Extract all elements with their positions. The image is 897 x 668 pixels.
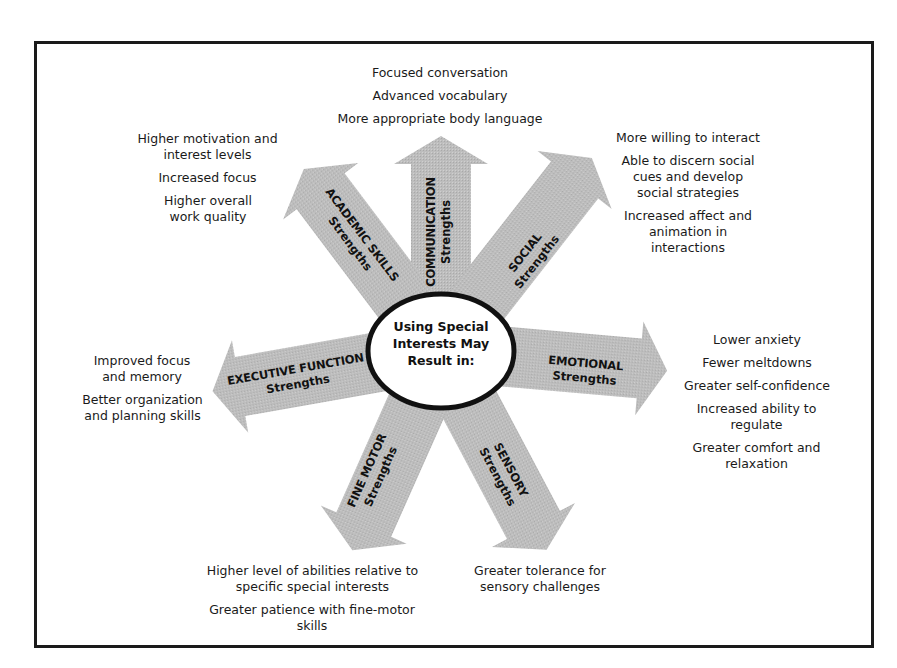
outcome-item: Increased focus	[130, 170, 285, 186]
outcomes-social: More willing to interact Able to discern…	[598, 130, 778, 263]
outcome-item: Greater tolerance for sensory challenges	[470, 563, 610, 595]
outcome-item: Greater comfort and relaxation	[684, 440, 829, 472]
outcome-item: Higher level of abilities relative to sp…	[200, 563, 425, 595]
outcomes-communication: Focused conversation Advanced vocabulary…	[300, 61, 580, 130]
arrow-subtitle: Strengths	[439, 132, 454, 332]
outcomes-executive-function: Improved focus and memory Better organiz…	[70, 353, 215, 431]
outcome-item: Higher motivation and interest levels	[130, 131, 285, 163]
outcome-item: More appropriate body language	[300, 107, 580, 130]
arrow-label-communication: COMMUNICATION Strengths	[424, 132, 454, 332]
outcomes-fine-motor: Higher level of abilities relative to sp…	[192, 563, 432, 641]
outcome-item: Increased affect and animation in intera…	[618, 208, 758, 256]
outcome-item: Higher overall work quality	[158, 193, 258, 225]
outcome-item: Greater self-confidence	[667, 378, 847, 394]
outcomes-sensory: Greater tolerance for sensory challenges	[465, 563, 615, 602]
outcomes-academic-skills: Higher motivation and interest levels In…	[130, 131, 285, 232]
outcome-item: Fewer meltdowns	[667, 355, 847, 371]
outcome-item: Improved focus and memory	[87, 353, 197, 385]
outcome-item: Increased ability to regulate	[689, 401, 824, 433]
outcome-item: Focused conversation	[300, 61, 580, 84]
outcomes-emotional: Lower anxiety Fewer meltdowns Greater se…	[667, 332, 847, 479]
outcome-item: More willing to interact	[598, 130, 778, 146]
outcome-item: Lower anxiety	[667, 332, 847, 348]
outcome-item: Able to discern social cues and develop …	[615, 153, 761, 201]
arrow-title: COMMUNICATION	[424, 132, 439, 332]
outcome-item: Advanced vocabulary	[300, 84, 580, 107]
outcome-item: Greater patience with fine-motor skills	[192, 602, 432, 634]
outcome-item: Better organization and planning skills	[70, 392, 215, 424]
